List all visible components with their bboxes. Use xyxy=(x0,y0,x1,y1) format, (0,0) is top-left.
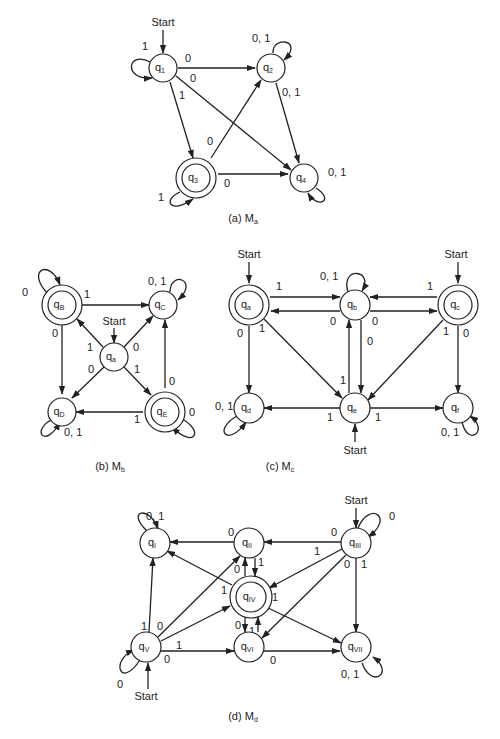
edge-label: 1 xyxy=(179,89,185,101)
state-qb: qb xyxy=(340,290,370,320)
edge-label: 0, 1 xyxy=(341,668,359,680)
state-qD: qD xyxy=(48,398,76,426)
edge-label: 1 xyxy=(443,325,449,337)
diagram-md: Start Start 0, 1 0 0 0 1 0 1 1 0 1 1 xyxy=(117,494,395,723)
start-label: Start xyxy=(237,248,260,260)
edge-qa-qe xyxy=(264,319,342,398)
edge-label: 1 xyxy=(272,591,278,603)
edge-label: 0 xyxy=(157,620,163,632)
edge-qIV-qI xyxy=(167,551,232,585)
edge-label: 0 xyxy=(389,510,395,522)
edge-label: 1 xyxy=(221,584,227,596)
edge-label: 0 xyxy=(52,327,58,339)
state-qd: qd xyxy=(234,393,264,423)
edge-label: 1 xyxy=(258,556,264,568)
edge-label: 0 xyxy=(185,52,191,64)
state-qc-accepting: qc xyxy=(438,285,478,325)
state-qV: qV xyxy=(131,632,161,662)
edge-label: 0 xyxy=(463,327,469,339)
edge-label: 0 xyxy=(207,135,213,147)
diagram-ma: Start 1 0 0 1 0, 1 0, 1 0 0 1 0, 1 xyxy=(131,16,346,225)
edge-label: 0, 1 xyxy=(441,426,459,438)
edge-qc-qe xyxy=(368,320,443,400)
state-qa: qa xyxy=(100,343,128,371)
edge-label: 1 xyxy=(259,322,265,334)
edge-label: 0 xyxy=(367,335,373,347)
state-qI: qI xyxy=(140,528,170,558)
edge-label: 0 xyxy=(22,286,28,298)
start-label: Start xyxy=(444,248,467,260)
start-label: Start xyxy=(343,444,366,456)
edge-label: 1 xyxy=(361,558,367,570)
edge-qb-qb xyxy=(347,273,365,292)
state-q3-accepting: q3 xyxy=(176,158,216,198)
edge-qIII-qIV xyxy=(269,549,342,588)
edge-label: 0 xyxy=(190,72,196,84)
edge-label: 1 xyxy=(276,280,282,292)
edge-label: 1 xyxy=(141,620,147,632)
edge-label: 0 xyxy=(164,653,170,665)
diagram-mb: 0 1 0 0, 1 1 0 0 1 0 1 0 0, 1 Start xyxy=(22,270,195,473)
caption-mc: (c) Mc xyxy=(266,460,295,473)
edge-label: 1 xyxy=(87,341,93,353)
state-q1: q1 xyxy=(149,54,177,82)
edge-label: 1 xyxy=(314,545,320,557)
state-qa-accepting: qa xyxy=(229,285,269,325)
state-qe: qe xyxy=(340,393,370,423)
edge-q3-q2 xyxy=(211,80,261,158)
start-label: Start xyxy=(134,690,157,702)
caption-ma: (a) Ma xyxy=(228,212,258,225)
automata-figure: Start 1 0 0 1 0, 1 0, 1 0 0 1 0, 1 xyxy=(0,0,500,739)
edge-label: 0, 1 xyxy=(64,426,82,438)
edge-label: 0 xyxy=(117,678,123,690)
edge-label: 1 xyxy=(134,413,140,425)
start-label: Start xyxy=(344,494,367,506)
state-q2: q2 xyxy=(257,54,285,82)
state-qIII: qIII xyxy=(341,528,371,558)
edge-label: 0 xyxy=(344,558,350,570)
edge-label: 0, 1 xyxy=(282,86,300,98)
edge-label: 1 xyxy=(427,280,433,292)
state-qVII: qVII xyxy=(341,632,371,662)
edge-qVII-qVII xyxy=(362,657,382,677)
edge-label: 0 xyxy=(228,526,234,538)
edge-label: 0, 1 xyxy=(146,510,164,522)
edge-label: 0 xyxy=(331,526,337,538)
edge-label: 0 xyxy=(330,315,336,327)
start-label: Start xyxy=(151,16,174,28)
edge-label: 0 xyxy=(270,654,276,666)
state-qB-accepting: qB xyxy=(42,285,82,325)
edge-label: 1 xyxy=(142,40,148,52)
edge-qIV-qVII xyxy=(266,607,341,643)
diagram-mc: Start Start Start 1 0 0 1 0, 1 0 1 0 1 1 xyxy=(215,248,478,473)
edge-label: 0, 1 xyxy=(215,400,233,412)
state-qE-accepting: qE xyxy=(145,392,185,432)
edge-label: 0 xyxy=(237,327,243,339)
edge-label: 0, 1 xyxy=(148,275,166,287)
edge-label: 0, 1 xyxy=(320,270,338,282)
edge-label: 0 xyxy=(224,177,230,189)
edge-label: 0 xyxy=(235,619,241,631)
edge-label: 1 xyxy=(327,411,333,423)
state-qC: qC xyxy=(149,291,177,319)
state-qII: qII xyxy=(234,528,264,558)
edge-label: 0 xyxy=(88,363,94,375)
state-qIV-accepting: qIV xyxy=(230,576,272,618)
state-qf: qf xyxy=(443,393,473,423)
edge-label: 0 xyxy=(189,406,195,418)
edge-label: 1 xyxy=(84,288,90,300)
edge-label: 0 xyxy=(372,315,378,327)
edge-label: 0 xyxy=(169,375,175,387)
state-qVI: qVI xyxy=(234,632,264,662)
edge-label: 0, 1 xyxy=(328,166,346,178)
caption-mb: (b) Mb xyxy=(95,460,125,473)
caption-md: (d) Md xyxy=(228,710,258,723)
start-label: Start xyxy=(102,315,125,327)
edge-label: 1 xyxy=(176,639,182,651)
edge-label: 1 xyxy=(134,363,140,375)
edge-label: 0, 1 xyxy=(252,32,270,44)
edge-label: 0 xyxy=(234,563,240,575)
edge-label: 0 xyxy=(133,341,139,353)
edge-label: 1 xyxy=(158,191,164,203)
state-q4: q4 xyxy=(290,164,318,192)
